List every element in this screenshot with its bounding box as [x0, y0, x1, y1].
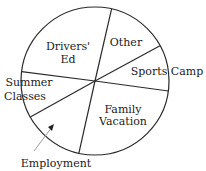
label-sports-camp: Sports Camp [131, 65, 203, 78]
label-summer-classes-line2: Classes [4, 90, 46, 103]
pie-chart: Drivers' Ed Other Sports Camp Summer Cla… [0, 0, 206, 171]
label-employment: Employment [21, 157, 92, 170]
label-summer-classes-line1: Summer [5, 76, 53, 89]
label-family-vacation-line2: Vacation [98, 115, 147, 128]
label-drivers-ed-line2: Ed [60, 53, 75, 66]
label-drivers-ed-line1: Drivers' [46, 40, 90, 53]
label-other: Other [110, 36, 143, 49]
